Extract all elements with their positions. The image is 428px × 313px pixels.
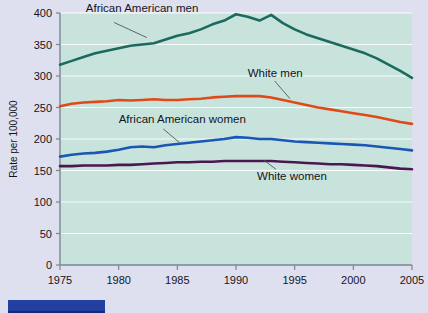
y-tick-label: 400: [34, 7, 52, 19]
x-tick-label: 2000: [341, 274, 365, 286]
y-tick-label: 50: [40, 228, 52, 240]
x-tick-label: 1985: [165, 274, 189, 286]
series-label: White men: [248, 67, 303, 79]
x-tick-label: 1980: [106, 274, 130, 286]
y-tick-label: 100: [34, 196, 52, 208]
y-tick-label: 250: [34, 102, 52, 114]
series-label: African American women: [119, 113, 246, 125]
x-tick-label: 1995: [282, 274, 306, 286]
y-tick-label: 150: [34, 165, 52, 177]
y-tick-label: 200: [34, 133, 52, 145]
series-label: African American men: [86, 2, 198, 14]
series-label: White women: [257, 170, 327, 182]
x-tick-label: 1975: [48, 274, 72, 286]
bottom-accent-bar: [8, 300, 105, 313]
y-tick-label: 300: [34, 70, 52, 82]
x-tick-label: 1990: [224, 274, 248, 286]
y-tick-label: 350: [34, 39, 52, 51]
y-axis-title: Rate per 100,000: [8, 100, 19, 178]
y-tick-label: 0: [46, 259, 52, 271]
x-tick-label: 2005: [400, 274, 424, 286]
